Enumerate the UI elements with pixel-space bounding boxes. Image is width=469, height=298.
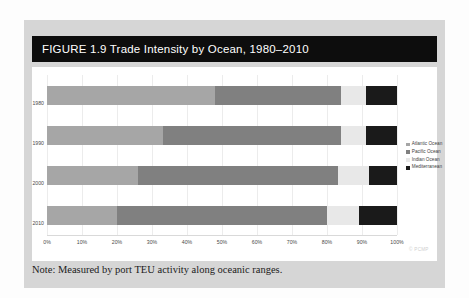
x-axis-line <box>47 235 397 236</box>
legend-swatch-atlantic <box>406 143 410 147</box>
legend-swatch-pacific <box>406 150 410 154</box>
figure-note: Note: Measured by port TEU activity alon… <box>32 264 437 275</box>
figure-screenshot: FIGURE 1.9 Trade Intensity by Ocean, 198… <box>0 0 469 298</box>
x-tick-label: 60% <box>252 239 262 245</box>
y-tick-label: 2000 <box>32 180 44 186</box>
plot-area: 1980199020002010 0%10%20%30%40%50%60%70%… <box>32 67 437 261</box>
legend-swatch-mediterranean <box>406 166 410 170</box>
bar-segment <box>359 206 398 225</box>
bar-row <box>47 126 397 145</box>
bar-segment <box>47 126 163 145</box>
legend-item-pacific[interactable]: Pacific Ocean <box>406 150 466 155</box>
figure-title-banner: FIGURE 1.9 Trade Intensity by Ocean, 198… <box>32 36 437 62</box>
x-tick-label: 80% <box>322 239 332 245</box>
bar-segment <box>117 206 327 225</box>
bar-segment <box>215 86 341 105</box>
bar-segment <box>163 126 342 145</box>
bar-segment <box>341 86 366 105</box>
legend-label-pacific: Pacific Ocean <box>412 150 441 155</box>
bar-rows <box>47 75 397 235</box>
y-tick-label: 1990 <box>32 140 44 146</box>
legend-item-indian[interactable]: Indian Ocean <box>406 158 466 163</box>
bar-segment <box>47 86 215 105</box>
x-tick-label: 0% <box>43 239 51 245</box>
watermark: © PCMP <box>409 247 429 252</box>
x-tick-label: 50% <box>217 239 227 245</box>
bar-segment <box>366 126 398 145</box>
gridline <box>397 75 398 235</box>
bar-segment <box>47 166 138 185</box>
bar-segment <box>47 206 117 225</box>
figure-title-text: FIGURE 1.9 Trade Intensity by Ocean, 198… <box>32 43 309 55</box>
x-tick-label: 40% <box>182 239 192 245</box>
y-axis-labels: 1980199020002010 <box>32 75 47 235</box>
x-tick-label: 20% <box>112 239 122 245</box>
bar-segment <box>338 166 370 185</box>
legend-label-mediterranean: Mediterranean <box>412 165 442 170</box>
bar-segment <box>369 166 397 185</box>
legend-swatch-indian <box>406 158 410 162</box>
legend-item-atlantic[interactable]: Atlantic Ocean <box>406 142 466 147</box>
chart-legend: Atlantic Ocean Pacific Ocean Indian Ocea… <box>406 142 466 173</box>
bars-container <box>47 75 397 235</box>
y-tick-label: 1980 <box>32 100 44 106</box>
x-tick-label: 30% <box>147 239 157 245</box>
legend-item-mediterranean[interactable]: Mediterranean <box>406 165 466 170</box>
y-tick-label: 2010 <box>32 220 44 226</box>
bar-segment <box>341 126 366 145</box>
bar-row <box>47 206 397 225</box>
legend-label-atlantic: Atlantic Ocean <box>412 142 443 147</box>
bar-row <box>47 166 397 185</box>
bar-segment <box>138 166 338 185</box>
x-tick-label: 100% <box>390 239 403 245</box>
x-tick-label: 10% <box>77 239 87 245</box>
x-axis-labels: 0%10%20%30%40%50%60%70%80%90%100% <box>47 239 397 251</box>
legend-label-indian: Indian Ocean <box>412 158 440 163</box>
bar-segment <box>327 206 359 225</box>
bar-row <box>47 86 397 105</box>
bar-segment <box>366 86 398 105</box>
x-tick-label: 90% <box>357 239 367 245</box>
x-tick-label: 70% <box>287 239 297 245</box>
